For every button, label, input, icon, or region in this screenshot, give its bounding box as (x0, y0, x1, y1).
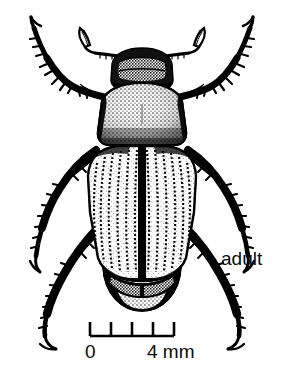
scale-label-min: 0 (85, 341, 96, 362)
foreleg-left (30, 17, 110, 101)
pronotum (96, 81, 188, 147)
foreleg-right (174, 17, 254, 101)
scale-bar: 0 4 mm (84, 314, 224, 374)
scale-label-max: 4 mm (147, 341, 195, 362)
elytron-right (142, 144, 198, 286)
scale-bar-graphic (84, 314, 224, 344)
adult-label: adult (221, 248, 262, 270)
elytron-left (86, 144, 142, 286)
figure-canvas: adult 0 4 mm (0, 0, 285, 382)
elytra (86, 144, 198, 286)
